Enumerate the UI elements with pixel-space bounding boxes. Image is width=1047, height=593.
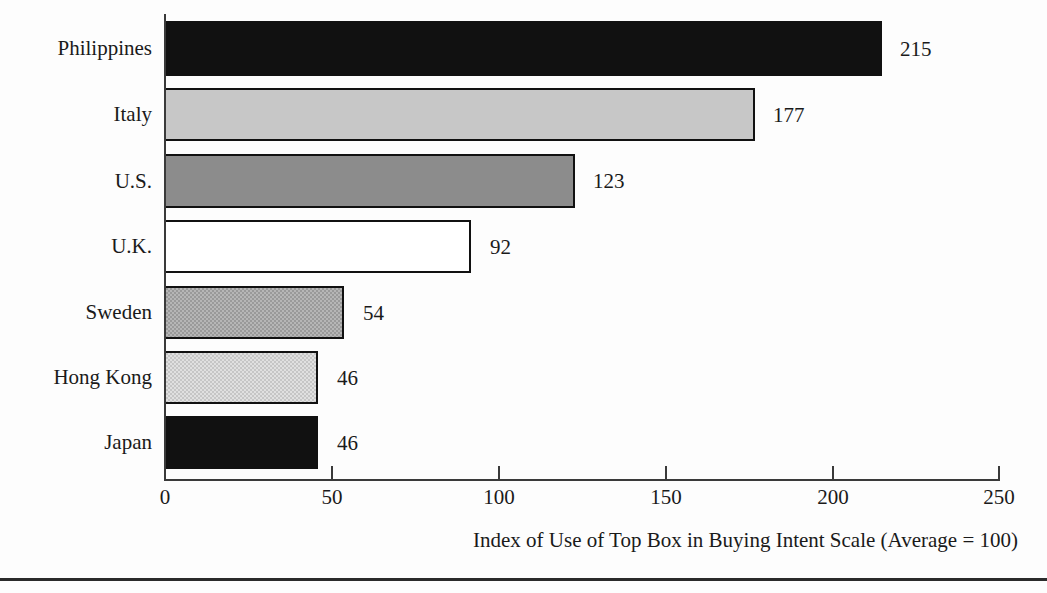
bar-value-japan: 46: [337, 432, 358, 453]
bar-value-hong-kong: 46: [337, 367, 358, 388]
x-tick-200: [832, 466, 834, 480]
x-tick-label-250: 250: [983, 487, 1015, 508]
bottom-divider-rule: [0, 578, 1047, 581]
category-label-sweden: Sweden: [0, 302, 152, 323]
bar-row: 46: [164, 416, 1044, 469]
category-label-japan: Japan: [0, 432, 152, 453]
bar-chart-figure: Philippines Italy U.S. U.K. Sweden Hong …: [0, 0, 1047, 593]
x-axis-title: Index of Use of Top Box in Buying Intent…: [0, 530, 1018, 551]
bar-us[interactable]: [164, 154, 575, 208]
bar-japan[interactable]: [164, 416, 318, 469]
bar-row: 46: [164, 351, 1044, 404]
x-tick-0: [164, 466, 166, 480]
category-label-hong-kong: Hong Kong: [0, 367, 152, 388]
bar-value-sweden: 54: [363, 302, 384, 323]
bar-hong-kong[interactable]: [164, 351, 318, 404]
bar-value-uk: 92: [490, 236, 511, 257]
category-label-us: U.S.: [0, 171, 152, 192]
x-tick-label-50: 50: [322, 487, 343, 508]
category-label-italy: Italy: [0, 104, 152, 125]
bar-value-us: 123: [593, 171, 625, 192]
x-tick-label-200: 200: [817, 487, 849, 508]
x-tick-label-150: 150: [650, 487, 682, 508]
x-tick-label-0: 0: [160, 487, 171, 508]
x-tick-50: [331, 466, 333, 480]
category-label-philippines: Philippines: [0, 38, 152, 59]
x-tick-150: [665, 466, 667, 480]
bar-row: 177: [164, 88, 1044, 141]
bar-row: 215: [164, 21, 1044, 76]
y-axis-line: [164, 14, 166, 481]
bar-italy[interactable]: [164, 88, 755, 141]
bar-sweden[interactable]: [164, 286, 344, 339]
bar-value-italy: 177: [773, 104, 805, 125]
bar-value-philippines: 215: [900, 38, 932, 59]
plot-area: Philippines Italy U.S. U.K. Sweden Hong …: [0, 0, 1047, 593]
x-axis-line: [164, 479, 1000, 481]
x-tick-label-100: 100: [483, 487, 515, 508]
bar-philippines[interactable]: [164, 21, 882, 76]
bar-row: 92: [164, 220, 1044, 273]
bar-row: 123: [164, 154, 1044, 208]
category-label-uk: U.K.: [0, 236, 152, 257]
x-tick-100: [498, 466, 500, 480]
bar-uk[interactable]: [164, 220, 471, 273]
x-tick-250: [998, 466, 1000, 480]
bar-row: 54: [164, 286, 1044, 339]
